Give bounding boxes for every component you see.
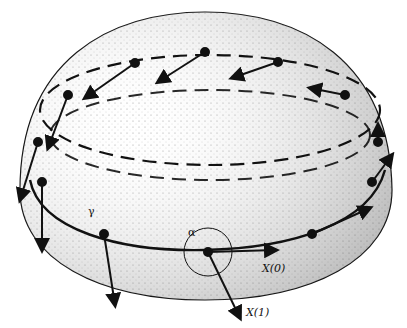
label-alpha: α <box>188 226 195 239</box>
label-x1: X(1) <box>246 306 269 319</box>
label-x0: X(0) <box>262 262 285 275</box>
label-gamma: γ <box>88 205 95 218</box>
hemisphere-diagram <box>0 0 407 328</box>
